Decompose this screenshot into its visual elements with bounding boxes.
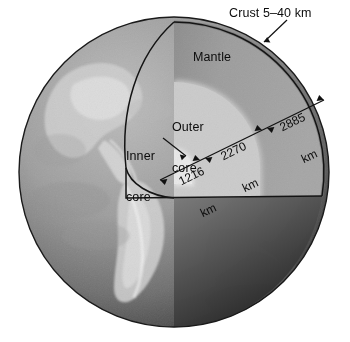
dimension-inner-core-unit: km — [193, 198, 222, 221]
dimension-arrow-crust — [317, 95, 324, 101]
dimension-inner-core-value: 1216 — [177, 165, 206, 188]
inner-core-label-line2: core — [126, 191, 155, 205]
mantle-label: Mantle — [193, 51, 231, 65]
inner-core-label-line1: Inner — [126, 150, 155, 164]
outer-core-label-line1: Outer — [172, 121, 204, 135]
earth-cross-section-figure: Crust 5–40 km Mantle Outer core Inner co… — [0, 0, 350, 342]
crust-leader-arrowhead — [264, 37, 270, 43]
dimension-mantle-unit: km — [294, 144, 323, 167]
dimension-outer-core-unit: km — [235, 173, 264, 196]
dimension-outer-core-value: 2270 — [219, 140, 248, 163]
inner-core-label: Inner core — [126, 123, 155, 231]
dimension-mantle-value: 2885 — [278, 111, 307, 134]
crust-label: Crust 5–40 km — [229, 7, 312, 21]
